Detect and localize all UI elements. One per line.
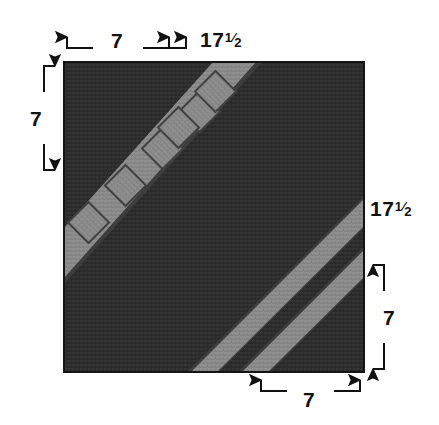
dimension-label-left-7: 7 [30, 108, 42, 129]
dimension-label-top-7: 7 [111, 30, 123, 51]
dimension-label-bottom-7: 7 [303, 389, 315, 410]
fabric-block [64, 62, 364, 372]
dim-top-17half-leader [160, 37, 186, 48]
dim-left-7-leader [44, 66, 55, 170]
dimension-value: 7 [383, 306, 395, 329]
dimension-value: 7 [111, 29, 123, 52]
fraction-numerator: 1 [395, 199, 403, 214]
fraction-one-half: 1⁄2 [225, 31, 244, 44]
dimension-label-right-7: 7 [383, 307, 395, 328]
dimension-label-top-17-half: 171⁄2 [200, 29, 244, 50]
dimension-value: 17 [370, 197, 394, 220]
fraction-one-half: 1⁄2 [395, 200, 414, 213]
fraction-numerator: 1 [225, 30, 233, 45]
dimension-value: 7 [303, 388, 315, 411]
dimension-value: 7 [30, 107, 42, 130]
fraction-denominator: 2 [234, 35, 242, 50]
fraction-denominator: 2 [404, 204, 412, 219]
dimension-label-right-17-half: 171⁄2 [370, 198, 414, 219]
dimension-value: 17 [200, 28, 224, 51]
